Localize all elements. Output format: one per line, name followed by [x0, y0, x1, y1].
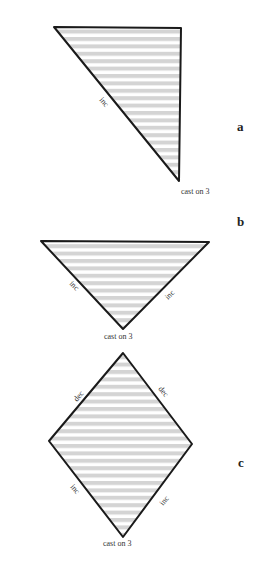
figure-letter-b: b [237, 214, 244, 229]
edge-label-inc-right: inc [158, 494, 171, 508]
edge-label-dec-right: dec [156, 385, 170, 400]
edge-label-inc-left: inc [68, 483, 81, 497]
figure-b: inc inc cast on 3 b [41, 214, 244, 341]
diamond-shape [49, 353, 192, 537]
figure-letter-a: a [237, 119, 244, 134]
edge-label-inc: inc [97, 96, 110, 110]
figure-c: dec dec inc inc cast on 3 c [49, 353, 244, 548]
inverted-triangle-shape [41, 241, 209, 329]
edge-label-inc-right: inc [163, 288, 177, 302]
cast-on-label: cast on 3 [104, 332, 132, 341]
cast-on-label: cast on 3 [181, 187, 209, 196]
right-triangle-shape [54, 27, 181, 181]
cast-on-label: cast on 3 [103, 539, 131, 548]
knitting-shapes-diagram: inc cast on 3 a inc inc cast on 3 b dec … [0, 0, 254, 568]
figure-letter-c: c [238, 455, 244, 470]
figure-a: inc cast on 3 a [54, 27, 244, 196]
